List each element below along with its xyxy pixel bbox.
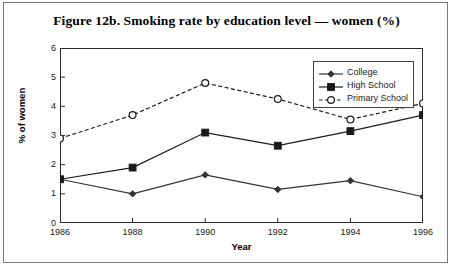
- diamond-marker: [420, 194, 423, 200]
- y-axis-tick-labels: 0123456: [38, 48, 56, 223]
- series-high-school: [60, 112, 423, 183]
- square-marker: [420, 112, 423, 119]
- chart-legend: CollegeHigh SchoolPrimary School: [313, 61, 414, 108]
- x-tick-label: 1988: [111, 227, 155, 237]
- diamond-marker: [202, 172, 208, 178]
- y-axis-title: % of women: [16, 71, 27, 161]
- y-tick-label: 2: [42, 160, 56, 169]
- y-tick-label: 3: [42, 131, 56, 140]
- x-tick-label: 1990: [183, 227, 227, 237]
- y-tick-label: 6: [42, 44, 56, 53]
- square-marker: [129, 164, 136, 171]
- square-marker: [274, 142, 281, 149]
- x-tick-label: 1996: [401, 227, 445, 237]
- legend-item: College: [318, 65, 408, 78]
- diamond-marker: [275, 186, 281, 192]
- x-tick-label: 1986: [38, 227, 82, 237]
- axis-tick-marks: [60, 77, 350, 223]
- square-marker: [60, 176, 63, 183]
- legend-item: Primary School: [318, 91, 408, 104]
- diamond-marker: [347, 178, 353, 184]
- square-marker: [318, 79, 344, 91]
- y-tick-label: 1: [42, 189, 56, 198]
- diamond-marker: [318, 66, 344, 78]
- circle-marker: [347, 116, 354, 123]
- circle-marker: [274, 96, 281, 103]
- circle-marker: [318, 92, 344, 104]
- y-tick-label: 4: [42, 102, 56, 111]
- x-axis-title: Year: [60, 241, 423, 252]
- circle-marker: [60, 135, 63, 142]
- x-tick-label: 1992: [256, 227, 300, 237]
- y-tick-label: 5: [42, 73, 56, 82]
- legend-label: High School: [344, 80, 396, 90]
- diamond-marker: [129, 191, 135, 197]
- x-axis-tick-labels: 198619881990199219941996: [60, 227, 423, 241]
- circle-marker: [202, 80, 209, 87]
- square-marker: [347, 128, 354, 135]
- circle-marker: [129, 112, 136, 119]
- figure-title: Figure 12b. Smoking rate by education le…: [4, 13, 449, 29]
- x-tick-label: 1994: [328, 227, 372, 237]
- series-line: [60, 175, 423, 197]
- square-marker: [202, 129, 209, 136]
- legend-item: High School: [318, 78, 408, 91]
- legend-label: College: [344, 67, 378, 77]
- series-line: [60, 115, 423, 179]
- legend-label: Primary School: [344, 93, 408, 103]
- figure-container: Figure 12b. Smoking rate by education le…: [3, 2, 448, 263]
- series-college: [60, 172, 423, 200]
- circle-marker: [420, 100, 423, 107]
